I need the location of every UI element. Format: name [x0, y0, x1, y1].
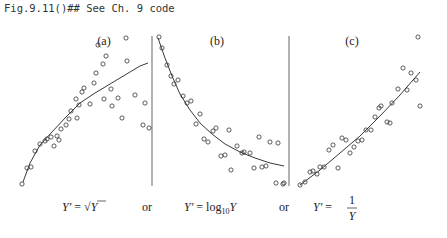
formula-log: Y′ = log10Y	[184, 200, 237, 216]
data-point	[369, 128, 373, 132]
data-point	[20, 182, 24, 186]
data-point	[264, 164, 268, 168]
data-point	[268, 140, 272, 144]
data-point	[133, 93, 137, 97]
data-point	[235, 144, 239, 148]
data-point	[49, 135, 53, 139]
data-point	[57, 138, 61, 142]
data-point	[189, 99, 193, 103]
panel-label: (a)	[97, 34, 110, 48]
data-point	[124, 36, 128, 40]
data-point	[80, 90, 84, 94]
data-point	[67, 117, 71, 121]
data-point	[396, 87, 400, 91]
data-point	[94, 71, 98, 75]
fitted-curve	[158, 38, 284, 166]
data-point	[88, 102, 92, 106]
data-point	[176, 78, 180, 82]
data-point	[92, 81, 96, 85]
data-point	[143, 101, 147, 105]
fitted-curve	[23, 63, 148, 182]
formula-reciprocal: Y′ =	[313, 200, 332, 214]
data-point	[75, 116, 79, 120]
fraction-denominator: Y	[349, 209, 357, 223]
data-point	[125, 59, 129, 63]
data-point	[194, 122, 198, 126]
data-point	[260, 165, 264, 169]
data-point	[373, 115, 377, 119]
data-point	[202, 137, 206, 141]
data-point	[414, 78, 418, 82]
connector-or: or	[142, 200, 152, 214]
data-point	[116, 96, 120, 100]
data-point	[252, 166, 256, 170]
data-point	[327, 148, 331, 152]
data-point	[109, 87, 113, 91]
data-point	[227, 128, 231, 132]
data-point	[141, 123, 145, 127]
data-point	[110, 104, 114, 108]
data-point	[206, 140, 210, 144]
data-point	[219, 154, 223, 158]
data-point	[257, 135, 261, 139]
data-point	[29, 165, 33, 169]
data-point	[281, 182, 285, 186]
data-point	[331, 143, 335, 147]
data-point	[348, 151, 352, 155]
formula-sqrt: Y′ = √Y	[62, 200, 99, 214]
data-point	[356, 139, 360, 143]
data-point	[336, 166, 340, 170]
data-point	[223, 153, 227, 157]
data-point	[401, 66, 405, 70]
data-point	[74, 97, 78, 101]
data-point	[276, 141, 280, 145]
data-point	[282, 181, 286, 185]
data-point	[59, 127, 63, 131]
data-point	[55, 134, 59, 138]
data-point	[229, 168, 233, 172]
data-point	[102, 97, 106, 101]
data-point	[120, 116, 124, 120]
data-point	[405, 88, 409, 92]
panel-label: (c)	[345, 34, 358, 48]
data-point	[352, 145, 356, 149]
data-point	[198, 112, 202, 116]
connector-or: or	[279, 200, 289, 214]
data-point	[416, 35, 420, 39]
data-point	[104, 54, 108, 58]
data-point	[101, 62, 105, 66]
data-point	[340, 136, 344, 140]
data-point	[147, 126, 151, 130]
data-point	[214, 126, 218, 130]
data-point	[274, 181, 278, 185]
fraction-numerator: 1	[349, 193, 355, 207]
data-point	[64, 123, 68, 127]
data-point	[409, 71, 413, 75]
data-point	[344, 138, 348, 142]
data-point	[157, 35, 161, 39]
data-point	[52, 144, 56, 148]
transformation-figure: (a)Y′ = √Y(b)Y′ = log10Y(c)Y′ = 1Yoror	[0, 0, 447, 238]
data-point	[82, 86, 86, 90]
data-point	[318, 165, 322, 169]
data-point	[360, 138, 364, 142]
data-point	[248, 151, 252, 155]
panel-label: (b)	[210, 34, 224, 48]
data-point	[418, 104, 422, 108]
